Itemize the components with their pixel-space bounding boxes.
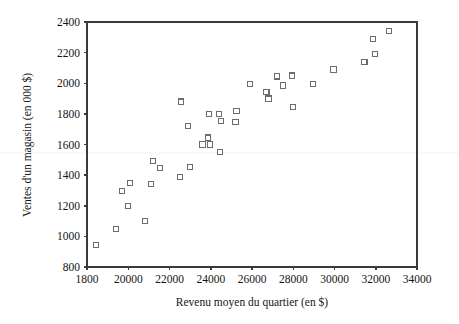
- data-point-marker: [206, 111, 211, 116]
- y-tick-label: 2000: [57, 77, 80, 89]
- x-axis-title: Revenu moyen du quartier (en $): [176, 296, 328, 309]
- x-tick-label: 22000: [155, 273, 184, 285]
- y-tick-label: 1600: [57, 139, 80, 151]
- data-point-marker: [158, 166, 163, 171]
- data-point-marker: [291, 104, 296, 109]
- data-point-marker: [150, 159, 155, 164]
- data-point-marker: [370, 36, 375, 41]
- data-point-marker: [200, 142, 205, 147]
- data-point-marker: [178, 99, 183, 104]
- data-point-marker: [188, 164, 193, 169]
- chart-canvas: 80010001200140016001800200022002400 1800…: [0, 0, 459, 324]
- data-point-marker: [310, 81, 315, 86]
- y-tick-label: 800: [63, 261, 81, 273]
- data-point-marker: [94, 242, 99, 247]
- data-point-marker: [148, 182, 153, 187]
- data-point-marker: [177, 174, 182, 179]
- data-point-marker: [247, 81, 252, 86]
- x-tick-label: 1800: [76, 273, 99, 285]
- data-point-marker: [218, 118, 223, 123]
- x-tick-label: 26000: [238, 273, 267, 285]
- data-point-marker: [126, 203, 131, 208]
- scatter-plot-figure: 80010001200140016001800200022002400 1800…: [0, 0, 459, 324]
- data-point-marker: [142, 218, 147, 223]
- x-tick-label: 28000: [279, 273, 308, 285]
- data-point-marker: [205, 135, 210, 140]
- x-tick-label: 20000: [114, 273, 143, 285]
- y-tick-label: 1400: [57, 169, 80, 181]
- data-point-marker: [372, 52, 377, 57]
- x-tick-label: 24000: [196, 273, 225, 285]
- y-tick-label: 1200: [57, 200, 80, 212]
- data-point-marker: [185, 124, 190, 129]
- data-point-marker: [217, 150, 222, 155]
- data-point-marker: [119, 189, 124, 194]
- y-tick-label: 2200: [57, 47, 80, 59]
- x-tick-label: 34000: [403, 273, 432, 285]
- data-point-marker: [331, 67, 336, 72]
- y-tick-label: 1000: [57, 230, 80, 242]
- data-point-marker: [128, 180, 133, 185]
- data-point-marker: [362, 59, 367, 64]
- data-point-marker: [264, 89, 269, 94]
- x-tick-label: 30000: [320, 273, 349, 285]
- x-tick-label: 32000: [361, 273, 390, 285]
- y-tick-label: 2400: [57, 16, 80, 28]
- scan-artifact-band: [0, 152, 459, 154]
- data-point-marker: [113, 226, 118, 231]
- data-point-marker: [234, 108, 239, 113]
- data-point-marker: [216, 111, 221, 116]
- data-point-marker: [290, 73, 295, 78]
- data-point-marker: [207, 142, 212, 147]
- data-point-marker: [280, 83, 285, 88]
- y-tick-label: 1800: [57, 108, 80, 120]
- data-point-marker: [233, 120, 238, 125]
- data-point-marker: [266, 96, 271, 101]
- data-point-marker: [387, 29, 392, 34]
- y-axis-title: Ventes d'un magasin (en 000 $): [21, 73, 34, 217]
- data-point-marker: [274, 74, 279, 79]
